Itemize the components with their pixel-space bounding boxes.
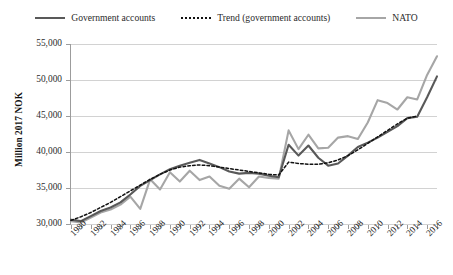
chart-container: Government accounts Trend (government ac… — [0, 0, 453, 275]
y-axis-label: 55,000 — [0, 38, 62, 48]
legend-item-trend: Trend (government accounts) — [181, 13, 330, 23]
plot-area — [71, 44, 437, 224]
legend-swatch-government-accounts — [35, 17, 65, 19]
legend-swatch-nato — [356, 17, 386, 19]
legend-label-trend: Trend (government accounts) — [217, 13, 330, 23]
y-axis-label: 45,000 — [0, 110, 62, 120]
series-line-trend-government-accounts — [71, 116, 417, 220]
y-axis-label: 30,000 — [0, 218, 62, 228]
y-axis-label: 50,000 — [0, 74, 62, 84]
legend-item-nato: NATO — [356, 13, 417, 23]
legend-swatch-trend — [181, 17, 211, 19]
y-axis-label: 40,000 — [0, 146, 62, 156]
series-lines — [71, 44, 437, 224]
legend-label-nato: NATO — [392, 13, 417, 23]
legend-item-government-accounts: Government accounts — [35, 13, 155, 23]
legend-label-government-accounts: Government accounts — [71, 13, 155, 23]
y-axis-label: 35,000 — [0, 182, 62, 192]
chart-legend: Government accounts Trend (government ac… — [0, 8, 453, 28]
